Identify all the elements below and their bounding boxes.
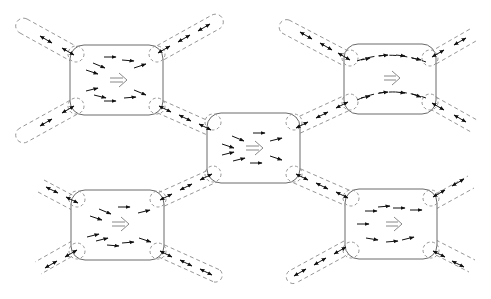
channel-top-right-se <box>430 97 477 132</box>
channel-top-right-nw <box>279 20 350 66</box>
channel-top-right-ne <box>430 29 476 64</box>
network-diagram <box>0 0 491 299</box>
